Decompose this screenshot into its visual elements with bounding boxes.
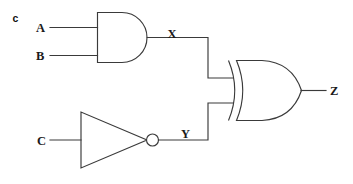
xor-gate-body — [237, 61, 302, 121]
logic-circuit-figure: c A B C X Y Z — [0, 0, 353, 184]
xor-gate — [229, 61, 302, 121]
and-gate — [98, 13, 148, 63]
part-label-c: c — [13, 12, 19, 24]
label-input-c: C — [37, 134, 46, 148]
label-input-b: B — [36, 49, 44, 63]
not-gate — [81, 112, 159, 168]
wire-x-to-xor — [147, 38, 233, 79]
label-input-a: A — [36, 21, 45, 35]
xor-gate-outer-arc — [229, 61, 235, 121]
label-output-z: Z — [330, 84, 338, 98]
not-gate-inversion-bubble — [147, 134, 159, 146]
label-signal-x: X — [168, 27, 177, 41]
and-gate-body — [98, 13, 148, 63]
circuit-canvas: c A B C X Y Z — [0, 0, 353, 184]
label-signal-y: Y — [181, 127, 190, 141]
not-gate-triangle — [81, 112, 147, 168]
wire-y-to-xor — [159, 103, 234, 140]
